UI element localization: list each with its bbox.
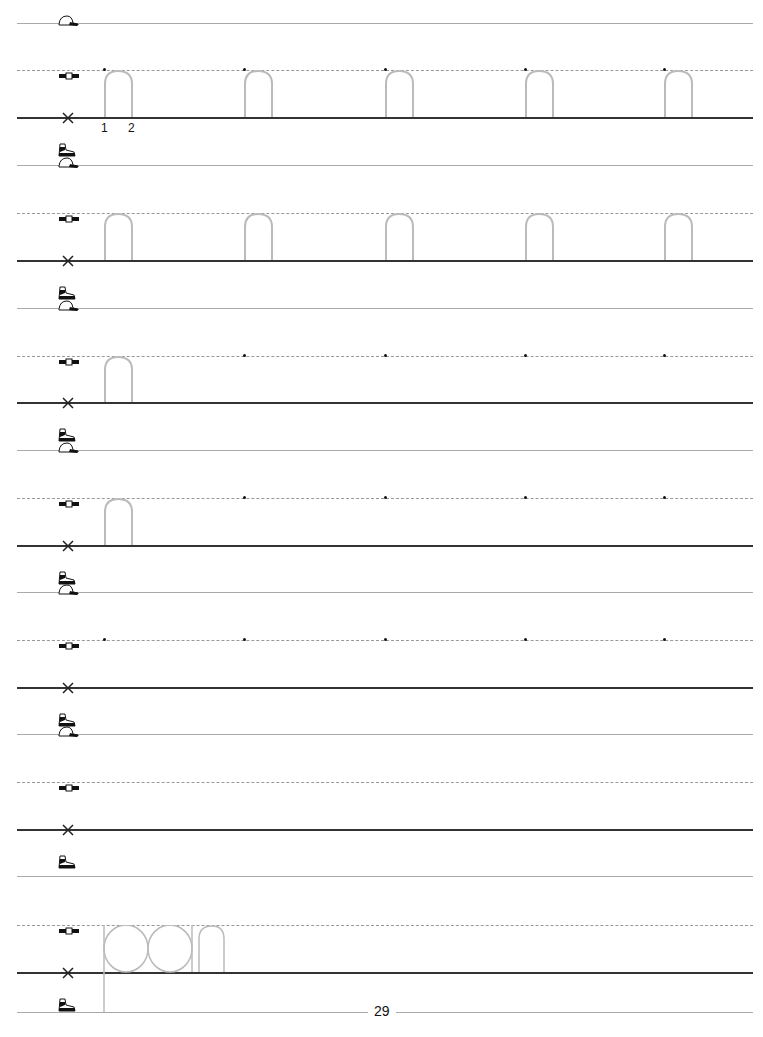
- cap-icon: [57, 724, 79, 736]
- start-dot: [384, 638, 387, 641]
- cap-icon: [57, 155, 79, 167]
- cap-icon: [57, 298, 79, 310]
- top-guide-line: [17, 308, 753, 309]
- x-mark-icon: [61, 254, 75, 268]
- start-dot: [524, 496, 527, 499]
- stroke-number-1: 1: [101, 121, 108, 135]
- cap-icon: [57, 13, 79, 25]
- baseline: [17, 687, 753, 689]
- belt-icon: [59, 636, 79, 644]
- traced-letter-n: [244, 70, 274, 117]
- traced-letter-n: [385, 213, 415, 260]
- traced-letter-n: [385, 70, 415, 117]
- x-mark-icon: [61, 966, 75, 980]
- traced-letter-n: [525, 70, 555, 117]
- traced-letter-n: [664, 70, 694, 117]
- practice-word-pan: [100, 925, 230, 1012]
- traced-letter-n: [525, 213, 555, 260]
- traced-letter-n: [104, 498, 134, 545]
- page-number: 29: [368, 1003, 396, 1019]
- start-dot: [103, 68, 106, 71]
- shoe-icon: [58, 997, 76, 1012]
- top-guide-line: [17, 592, 753, 593]
- shoe-icon: [58, 854, 76, 869]
- top-guide-line: [17, 876, 753, 877]
- start-dot: [103, 638, 106, 641]
- traced-letter-n: [104, 356, 134, 402]
- start-dot: [243, 638, 246, 641]
- top-guide-line: [17, 165, 753, 166]
- belt-icon: [59, 778, 79, 786]
- stroke-number-2: 2: [128, 121, 135, 135]
- start-dot: [384, 68, 387, 71]
- traced-letter-n: [104, 213, 134, 260]
- belt-icon: [59, 209, 79, 217]
- x-mark-icon: [61, 681, 75, 695]
- baseline: [17, 117, 753, 119]
- start-dot: [524, 68, 527, 71]
- start-dot: [384, 496, 387, 499]
- top-guide-line: [17, 23, 753, 24]
- midline-dashed: [17, 782, 753, 783]
- start-dot: [243, 354, 246, 357]
- belt-icon: [59, 494, 79, 502]
- start-dot: [663, 496, 666, 499]
- baseline: [17, 402, 753, 404]
- belt-icon: [59, 352, 79, 360]
- x-mark-icon: [61, 111, 75, 125]
- belt-icon: [59, 921, 79, 929]
- cap-icon: [57, 582, 79, 594]
- x-mark-icon: [61, 823, 75, 837]
- top-guide-line: [17, 734, 753, 735]
- start-dot: [663, 354, 666, 357]
- x-mark-icon: [61, 396, 75, 410]
- start-dot: [524, 638, 527, 641]
- start-dot: [663, 68, 666, 71]
- cap-icon: [57, 440, 79, 452]
- traced-letter-n: [244, 213, 274, 260]
- belt-icon: [59, 66, 79, 74]
- traced-letter-n: [104, 70, 134, 117]
- baseline: [17, 260, 753, 262]
- top-guide-line: [17, 450, 753, 451]
- traced-letter-n: [664, 213, 694, 260]
- start-dot: [524, 354, 527, 357]
- baseline: [17, 545, 753, 547]
- start-dot: [384, 354, 387, 357]
- start-dot: [663, 638, 666, 641]
- start-dot: [243, 496, 246, 499]
- start-dot: [243, 68, 246, 71]
- baseline: [17, 829, 753, 831]
- x-mark-icon: [61, 539, 75, 553]
